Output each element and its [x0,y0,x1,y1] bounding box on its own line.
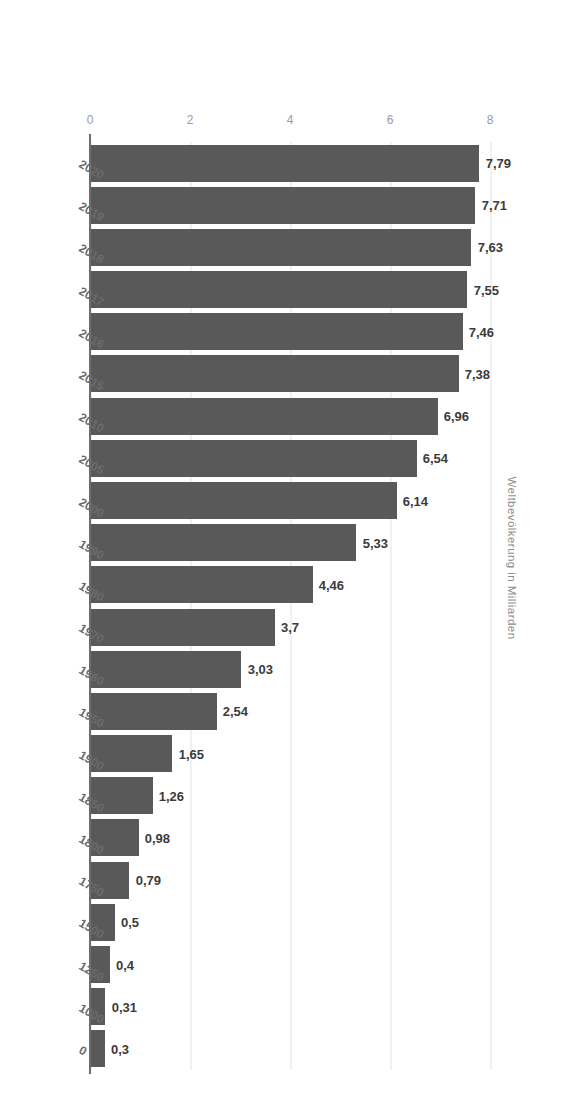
bar-rect[interactable] [90,482,397,519]
bar-value-label: 1,65 [179,746,204,761]
bar-value-label: 2,54 [223,704,248,719]
value-axis-tick-2: 2 [175,113,205,127]
bar-value-label: 7,38 [465,367,490,382]
bar-row[interactable]: 7,55 [90,271,468,308]
bar-rect[interactable] [90,566,313,603]
bar-rect[interactable] [90,356,459,393]
value-axis-tick-0: 0 [75,113,105,127]
bar-value-label: 7,63 [478,240,503,255]
bar-value-label: 7,71 [482,198,507,213]
bar-row[interactable]: 4,46 [90,566,313,603]
bar-row[interactable]: 0,3 [90,1030,105,1067]
bar-value-label: 6,54 [423,451,448,466]
bar-chart-figure: Weltbevölkerung in Milliarden 02468 0,30… [0,0,562,1110]
bar-row[interactable]: 3,03 [90,651,242,688]
bar-row[interactable]: 6,96 [90,398,438,435]
gridline-8 [491,142,492,1070]
bar-value-label: 6,96 [444,409,469,424]
bar-value-label: 0,79 [136,873,161,888]
bar-rect[interactable] [90,1030,105,1067]
bar-value-label: 0,3 [111,1041,129,1056]
category-label-0: 0 [77,1043,90,1058]
bar-value-label: 0,4 [116,957,134,972]
bar-rect[interactable] [90,398,438,435]
bar-row[interactable]: 7,38 [90,356,459,393]
value-axis-tick-8: 8 [475,113,505,127]
value-axis-tick-6: 6 [375,113,405,127]
bar-rect[interactable] [90,187,476,224]
bar-value-label: 6,14 [403,493,428,508]
bar-row[interactable]: 7,46 [90,313,463,350]
bar-row[interactable]: 7,71 [90,187,476,224]
bar-value-label: 3,7 [281,620,299,635]
bar-value-label: 3,03 [248,662,273,677]
bar-rect[interactable] [90,229,472,266]
bar-row[interactable]: 6,14 [90,482,397,519]
bar-row[interactable]: 6,54 [90,440,417,477]
bar-rect[interactable] [90,524,357,561]
value-axis-title-container: Weltbevölkerung in Milliarden [528,0,562,1110]
plot-area: 0,30,310,40,50,790,981,261,652,543,033,7… [90,142,490,1070]
bar-rect[interactable] [90,271,468,308]
bar-rect[interactable] [90,145,480,182]
value-axis-tick-4: 4 [275,113,305,127]
bar-value-label: 4,46 [319,577,344,592]
category-axis: 0100012501500175018001850190019501960197… [0,142,90,1070]
bar-rect[interactable] [90,609,275,646]
bar-row[interactable]: 7,79 [90,145,480,182]
bar-value-label: 1,26 [159,788,184,803]
bar-rect[interactable] [90,313,463,350]
bar-value-label: 7,79 [486,156,511,171]
bar-row[interactable]: 5,33 [90,524,357,561]
rotated-figure-wrapper: Weltbevölkerung in Milliarden 02468 0,30… [0,0,562,1110]
bar-row[interactable]: 2,54 [90,693,217,730]
bar-value-label: 0,98 [145,831,170,846]
bar-value-label: 0,31 [112,999,137,1014]
bar-rect[interactable] [90,651,242,688]
bar-value-label: 5,33 [363,535,388,550]
bar-rect[interactable] [90,693,217,730]
bar-rect[interactable] [90,440,417,477]
bar-row[interactable]: 3,7 [90,609,275,646]
bar-value-label: 7,55 [474,282,499,297]
bar-value-label: 7,46 [469,324,494,339]
bar-value-label: 0,5 [121,915,139,930]
bars-layer: 0,30,310,40,50,790,981,261,652,543,033,7… [90,142,490,1070]
bar-row[interactable]: 7,63 [90,229,472,266]
